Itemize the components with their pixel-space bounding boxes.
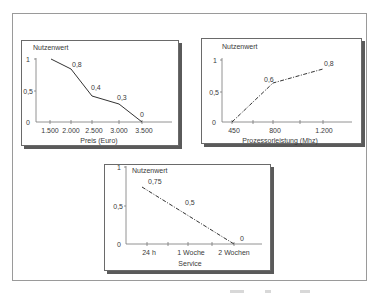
x-tick: 24 h (142, 249, 156, 256)
point-label: 0,5 (185, 199, 195, 206)
point-label: 0,75 (148, 178, 162, 185)
cropped-caption-fragment (230, 290, 244, 293)
cropped-caption-fragment (265, 290, 271, 293)
x-tick: 2 Wochen (218, 249, 249, 256)
x-tick: 1 Woche (177, 249, 205, 256)
y-axis-title: Nutzenwert (132, 167, 167, 174)
y-tick-0: 0 (117, 241, 121, 248)
point-label: 0 (240, 235, 244, 242)
y-tick-1: 1 (117, 164, 121, 171)
x-axis-title: Service (178, 260, 201, 267)
cropped-caption-fragment (300, 290, 310, 293)
chart-service-plot: Nutzenwert 1 0,5 0 24 h 1 Woche 2 Wochen… (0, 0, 380, 297)
y-tick-05: 0,5 (113, 203, 123, 210)
